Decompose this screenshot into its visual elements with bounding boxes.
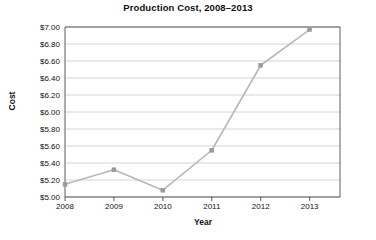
data-point-marker <box>210 148 214 152</box>
y-tick-label: $6.60 <box>40 57 61 66</box>
x-tick-label: 2011 <box>203 202 221 211</box>
y-tick-label: $5.60 <box>40 142 61 151</box>
x-tick-label: 2010 <box>154 202 172 211</box>
data-point-marker <box>63 182 67 186</box>
y-tick-label: $6.00 <box>40 108 61 117</box>
data-point-markers <box>63 28 312 193</box>
y-tick-label: $6.40 <box>40 74 61 83</box>
plot-area: $5.00$5.20$5.40$5.60$5.80$6.00$6.20$6.40… <box>0 0 376 240</box>
y-tick-labels: $5.00$5.20$5.40$5.60$5.80$6.00$6.20$6.40… <box>40 23 61 202</box>
x-tick-label: 2008 <box>56 202 74 211</box>
x-tick-marks <box>65 197 310 201</box>
data-point-marker <box>259 63 263 67</box>
y-tick-label: $7.00 <box>40 23 61 32</box>
x-tick-labels: 200820092010201120122013 <box>56 202 319 211</box>
data-point-marker <box>161 188 165 192</box>
y-tick-label: $5.20 <box>40 176 61 185</box>
y-tick-label: $6.80 <box>40 40 61 49</box>
data-point-marker <box>112 168 116 172</box>
data-series-line <box>65 30 310 191</box>
y-tick-label: $5.00 <box>40 193 61 202</box>
y-tick-label: $5.40 <box>40 159 61 168</box>
y-tick-label: $6.20 <box>40 91 61 100</box>
x-tick-label: 2012 <box>252 202 270 211</box>
y-tick-label: $5.80 <box>40 125 61 134</box>
line-chart: Production Cost, 2008–2013 Cost Year $5.… <box>0 0 376 240</box>
x-tick-label: 2009 <box>105 202 123 211</box>
data-point-marker <box>308 28 312 32</box>
series-polyline <box>65 30 310 191</box>
x-tick-label: 2013 <box>301 202 319 211</box>
